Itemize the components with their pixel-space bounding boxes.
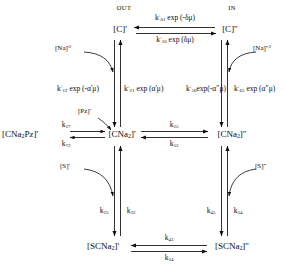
reactant-na-in: [Na]″2 — [253, 45, 271, 52]
rate-right-down: k°56exp(-α″μ) — [186, 85, 226, 94]
rate-left-up: k°21 exp (α'μ) — [124, 85, 163, 94]
rate-left-down: k°12 exp (-α'μ) — [57, 85, 99, 94]
species-scna2-in: [SCNa2]″ — [215, 242, 249, 252]
rate-top-back: k°61 exp (-δμ) — [155, 14, 195, 23]
rate-pz-fwd: k27 — [62, 121, 71, 130]
species-cna2-in: [CNa2]″ — [217, 130, 246, 140]
rate-right-lower-down: k45 — [207, 207, 216, 216]
rate-pz-back: k72 — [62, 140, 71, 149]
species-c-in: [C]″ — [222, 25, 238, 34]
species-c-out: [C]' — [113, 25, 127, 34]
curve-na-out-feed — [84, 52, 113, 72]
rate-mid-fwd: k25 — [170, 121, 179, 130]
rate-left-lower-down: k23 — [100, 207, 109, 216]
rate-right-lower-up: k54 — [234, 207, 243, 216]
header-out: OUT — [117, 5, 132, 12]
reactant-pz-out: [Pz]' — [78, 108, 91, 115]
rate-bottom-back: k43 — [165, 234, 174, 243]
reactant-na-out: [Na]'2 — [55, 45, 71, 52]
rate-top-fwd: k°16 exp (δμ) — [156, 36, 194, 45]
header-in: IN — [228, 5, 236, 12]
rate-left-lower-up: k32 — [127, 207, 136, 216]
rate-mid-back: k52 — [170, 140, 179, 149]
species-scna2-out: [SCNa2]' — [87, 242, 119, 252]
species-cna2pz-out: [CNa2Pz]' — [2, 130, 38, 140]
reactant-s-in: [S]″ — [255, 163, 266, 170]
species-cna2-out: [CNa2]' — [108, 130, 135, 140]
curve-s-in-feed — [229, 169, 256, 196]
curve-na-in-feed — [229, 52, 256, 72]
rate-bottom-fwd: k34 — [165, 254, 174, 263]
rate-right-up: k°65 exp (α″μ) — [234, 85, 275, 94]
curve-s-out-feed — [84, 169, 113, 196]
reactant-s-out: [S]' — [60, 163, 70, 170]
